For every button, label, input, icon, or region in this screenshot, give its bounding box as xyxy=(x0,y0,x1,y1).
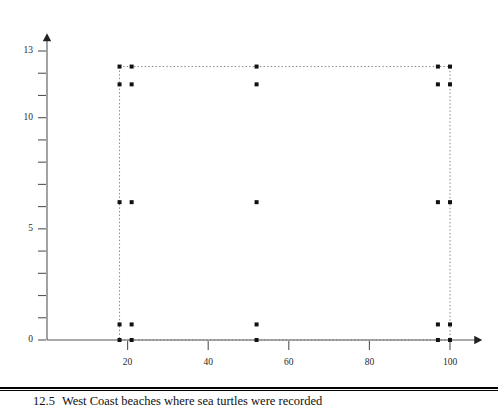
figure-caption: 12.5West Coast beaches where sea turtles… xyxy=(33,394,473,408)
data-point xyxy=(436,200,440,204)
data-point xyxy=(448,338,452,342)
data-point xyxy=(448,82,452,86)
caption-body: West Coast beaches where sea turtles wer… xyxy=(62,394,322,408)
data-point xyxy=(130,200,134,204)
x-axis-tick-label: 20 xyxy=(123,358,133,368)
data-point xyxy=(118,65,122,69)
boundary-rectangle xyxy=(120,67,450,340)
scatter-plot: 051013 20406080100 xyxy=(0,0,498,385)
data-point xyxy=(130,338,134,342)
y-axis-tick-label: 13 xyxy=(0,46,33,56)
data-point xyxy=(255,200,259,204)
data-point xyxy=(118,82,122,86)
x-axis-tick-label: 40 xyxy=(203,358,213,368)
x-axis-tick-label: 100 xyxy=(443,358,457,368)
data-point xyxy=(448,65,452,69)
figure-container: 051013 20406080100 12.5West Coast beache… xyxy=(0,0,498,408)
data-point xyxy=(255,65,259,69)
data-point xyxy=(436,322,440,326)
data-point xyxy=(130,322,134,326)
data-point xyxy=(436,338,440,342)
axis-layer xyxy=(38,33,482,350)
boundary-rectangle-outline xyxy=(120,67,450,340)
data-point xyxy=(255,322,259,326)
data-point xyxy=(436,65,440,69)
data-point xyxy=(255,338,259,342)
caption-rule-thick xyxy=(0,387,498,389)
data-point xyxy=(436,82,440,86)
data-point xyxy=(448,200,452,204)
x-axis-tick-label: 80 xyxy=(365,358,375,368)
figure-caption-block: 12.5West Coast beaches where sea turtles… xyxy=(0,385,498,408)
y-axis-tick-label: 10 xyxy=(0,113,33,123)
data-point xyxy=(130,65,134,69)
y-axis-arrowhead xyxy=(43,33,51,41)
data-point xyxy=(118,322,122,326)
x-axis-arrowhead xyxy=(474,336,482,344)
plot-canvas xyxy=(0,0,498,385)
data-point xyxy=(255,82,259,86)
y-axis-tick-label: 0 xyxy=(0,335,33,345)
data-point xyxy=(130,82,134,86)
caption-number: 12.5 xyxy=(33,394,55,408)
x-axis-tick-label: 60 xyxy=(284,358,294,368)
data-points-layer xyxy=(118,65,452,342)
data-point xyxy=(448,322,452,326)
data-point xyxy=(118,338,122,342)
data-point xyxy=(118,200,122,204)
y-axis-tick-label: 5 xyxy=(0,224,33,234)
caption-rule-thin xyxy=(0,390,498,391)
